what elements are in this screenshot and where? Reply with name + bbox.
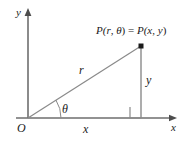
x-axis (16, 115, 177, 122)
radius-line (28, 46, 141, 118)
point-p-polar-open: P( (96, 24, 106, 36)
point-p-marker (139, 44, 144, 49)
base-leg-label: x (83, 123, 88, 135)
point-p-label: P(r, θ) = P(x, y) (96, 25, 166, 36)
theta-label: θ (62, 103, 68, 115)
right-angle-marker (130, 107, 141, 118)
y-axis-arrowhead (25, 8, 32, 16)
point-p-equals: = (125, 24, 137, 36)
point-p-cart-open: P( (137, 24, 147, 36)
theta-arc (56, 100, 61, 118)
vertical-leg-label: y (146, 74, 151, 86)
y-axis-label: y (16, 7, 21, 18)
point-p-cart-close: ) (163, 24, 167, 36)
origin-label: O (17, 122, 26, 134)
polar-coordinates-figure: y O θ r x y x P(r, θ) = P(x, y) (0, 0, 186, 146)
y-axis (25, 8, 32, 118)
radius-label: r (79, 64, 84, 76)
figure-canvas (0, 0, 186, 146)
x-axis-label: x (171, 122, 176, 133)
